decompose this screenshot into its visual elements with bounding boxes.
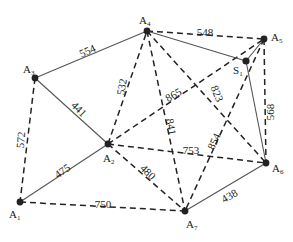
node-label-s1: S1 <box>233 64 243 78</box>
node-a4 <box>144 28 151 35</box>
edge-weight-label: 753 <box>183 144 200 156</box>
node-a1 <box>17 199 24 206</box>
node-a5 <box>261 36 268 43</box>
node-s1 <box>242 57 249 64</box>
edge-weight-label: 823 <box>209 84 226 104</box>
edge-weight-label: 865 <box>163 85 184 104</box>
edge-weight-label: 548 <box>197 26 214 38</box>
edge-weight-label: 568 <box>264 103 276 120</box>
edge-weight-label: 841 <box>164 118 179 136</box>
edge-a5-a6 <box>264 39 266 163</box>
node-label-a7: A7 <box>186 218 198 232</box>
edge-weight-label: 532 <box>114 78 129 96</box>
edge-weight-label: 572 <box>14 131 27 148</box>
node-label-a6: A6 <box>272 162 284 176</box>
node-a6 <box>263 160 270 167</box>
edge-weight-label: 554 <box>77 42 97 60</box>
edge-a2-a5 <box>108 39 264 144</box>
edge-weight-label: 480 <box>138 162 159 183</box>
node-label-a4: A4 <box>139 14 151 28</box>
edge-weight-label: 441 <box>69 99 89 119</box>
edge-a3-a2 <box>35 78 108 144</box>
graph-svg: 5544414755727505328657534805488418235688… <box>0 0 293 242</box>
edge-weight-labels: 5544414755727505328657534805488418235688… <box>14 26 276 210</box>
weighted-graph-diagram: 5544414755727505328657534805488418235688… <box>0 0 293 242</box>
node-a7 <box>182 208 189 215</box>
edges-layer <box>20 31 266 211</box>
node-label-a3: A3 <box>23 63 35 77</box>
nodes-layer: A1A2A3A4A5S1A6A7 <box>9 14 284 232</box>
node-label-a2: A2 <box>103 152 115 166</box>
edge-weight-label: 475 <box>52 161 73 181</box>
node-label-a5: A5 <box>271 31 283 45</box>
node-label-a1: A1 <box>9 208 21 222</box>
edge-weight-label: 750 <box>95 198 112 210</box>
node-a2 <box>105 141 112 148</box>
